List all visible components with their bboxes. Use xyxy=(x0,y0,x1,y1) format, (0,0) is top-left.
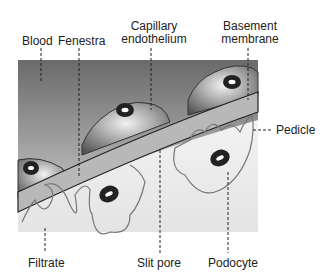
label-blood: Blood xyxy=(22,35,53,48)
label-basement-membrane: Basement membrane xyxy=(220,20,280,46)
label-pedicle: Pedicle xyxy=(276,124,315,137)
label-capillary-endothelium: Capillary endothelium xyxy=(118,20,190,46)
label-fenestra: Fenestra xyxy=(58,35,105,48)
label-podocyte: Podocyte xyxy=(208,257,258,270)
label-basement-line2: membrane xyxy=(220,33,280,46)
label-filtrate: Filtrate xyxy=(28,257,65,270)
label-capillary-line2: endothelium xyxy=(118,33,190,46)
label-slit-pore: Slit pore xyxy=(137,257,181,270)
